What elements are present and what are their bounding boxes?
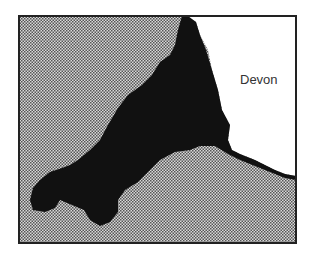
devon-label: Devon <box>240 72 278 87</box>
map <box>0 0 315 260</box>
